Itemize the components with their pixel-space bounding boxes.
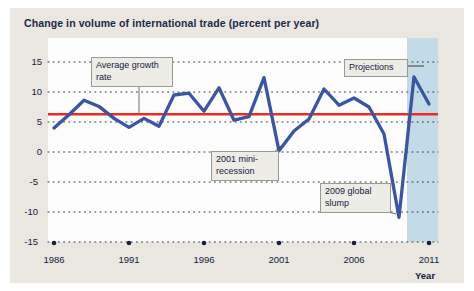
tick-dot-2011: [427, 241, 432, 246]
tick-dot-1991: [127, 241, 132, 246]
callout-global-slump: 2009 global slump: [320, 183, 391, 213]
tick-dot-2001: [277, 241, 282, 246]
plot-graphics: [0, 0, 474, 291]
callout-mini-recession: 2001 mini- recession: [211, 151, 279, 181]
callout-projections: Projections: [344, 59, 408, 77]
x-axis-tick-dots: [52, 241, 432, 246]
tick-dot-2006: [352, 241, 357, 246]
callout-average-growth: Average growth rate: [91, 57, 173, 87]
chart-figure: Change in volume of international trade …: [0, 0, 474, 291]
tick-dot-1986: [52, 241, 57, 246]
tick-dot-1996: [202, 241, 207, 246]
